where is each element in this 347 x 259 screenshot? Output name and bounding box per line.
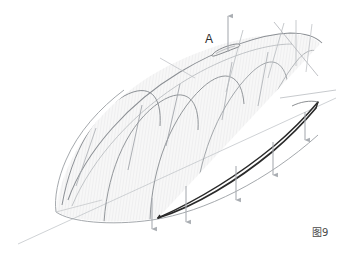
- hull-body: [56, 34, 320, 221]
- detail-label-a: A: [205, 33, 213, 45]
- figure-caption: 图9: [312, 227, 328, 239]
- construction-line-6: [280, 90, 336, 98]
- technical-drawing-canvas: [0, 0, 347, 259]
- hull-body-hatch: [56, 34, 320, 221]
- heavy-edge-top-highlight: [292, 101, 318, 106]
- figure-root: A 图9: [0, 0, 347, 259]
